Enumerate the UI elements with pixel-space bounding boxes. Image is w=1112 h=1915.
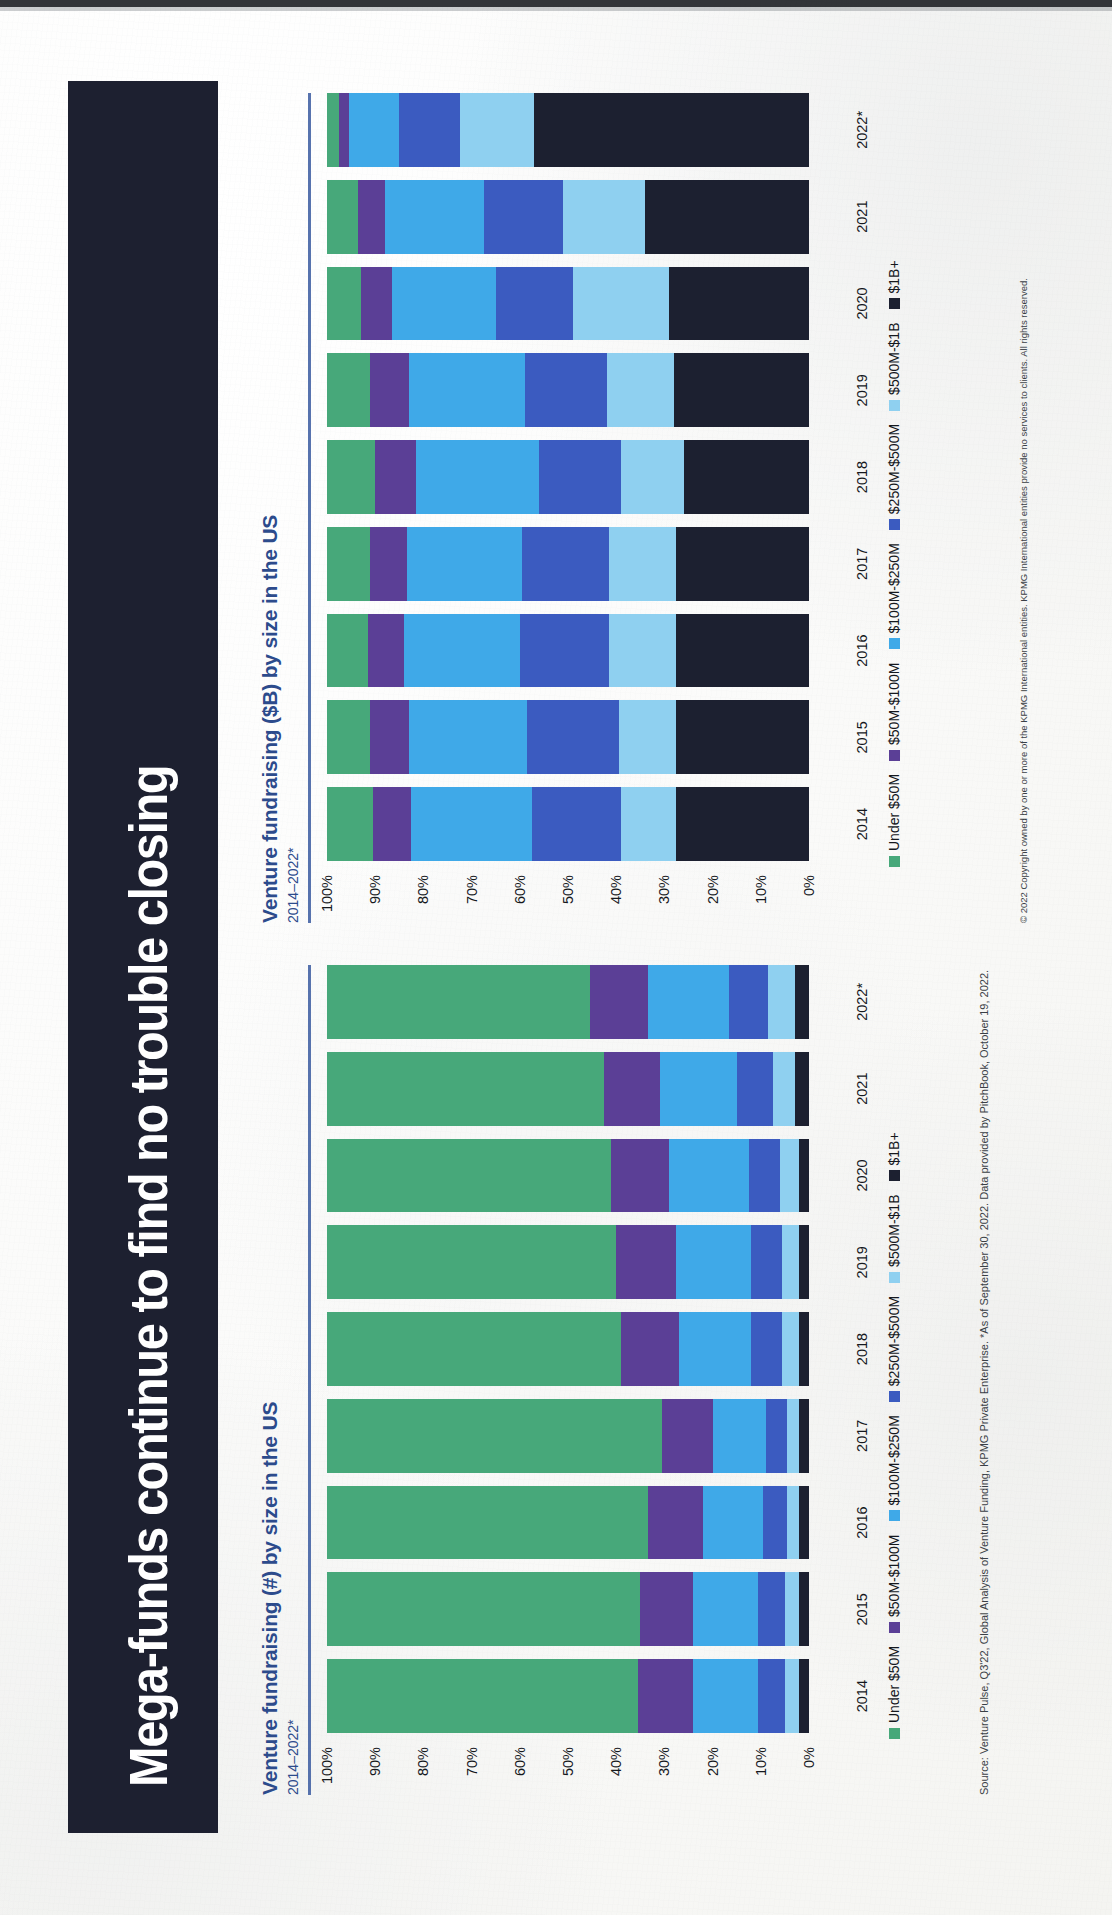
legend-swatch-icon xyxy=(889,1271,900,1282)
legend-item[interactable]: $250M-$500M xyxy=(886,1295,902,1401)
bar-segment xyxy=(607,353,674,427)
bar-segment xyxy=(327,1659,638,1733)
bar-column[interactable] xyxy=(327,1572,809,1646)
bar-segment xyxy=(621,1312,679,1386)
bar-segment xyxy=(525,353,607,427)
bar-column[interactable] xyxy=(327,1398,809,1472)
legend-item[interactable]: $50M-$100M xyxy=(886,662,902,761)
bar-column[interactable] xyxy=(327,965,809,1039)
y-tick-label: 80% xyxy=(415,875,431,904)
bar-column[interactable] xyxy=(327,1312,809,1386)
y-tick-label: 60% xyxy=(512,875,528,904)
chart-panel-amount: Venture fundraising ($B) by size in the … xyxy=(258,93,958,923)
bar-segment xyxy=(327,1138,611,1212)
legend-swatch-icon xyxy=(889,519,900,530)
bar-column[interactable] xyxy=(327,700,809,774)
bar-column[interactable] xyxy=(327,266,809,340)
bar-segment xyxy=(782,1312,799,1386)
bar-segment xyxy=(327,1398,662,1472)
bar-segment xyxy=(729,965,768,1039)
scan-top-edge-shadow xyxy=(0,7,1112,11)
plot-area-count: 100%90%80%70%60%50%40%30%20%10%0% xyxy=(327,965,847,1795)
y-tick-label: 40% xyxy=(608,875,624,904)
bar-segment xyxy=(358,179,385,253)
stacked-bar xyxy=(327,1225,809,1299)
y-tick-label: 0% xyxy=(801,875,817,896)
bar-segment xyxy=(795,1051,809,1125)
bar-column[interactable] xyxy=(327,179,809,253)
bar-segment xyxy=(327,1312,621,1386)
legend-swatch-icon xyxy=(889,399,900,410)
title-band: Mega-funds continue to find no trouble c… xyxy=(68,81,218,1833)
stacked-bar xyxy=(327,1138,809,1212)
x-tick-label: 2015 xyxy=(854,1572,870,1646)
legend-item[interactable]: $500M-$1B xyxy=(886,1194,902,1282)
legend-item[interactable]: $1B+ xyxy=(886,1132,902,1181)
legend-item[interactable]: $50M-$100M xyxy=(886,1534,902,1633)
legend-item[interactable]: $500M-$1B xyxy=(886,322,902,410)
legend-swatch-icon xyxy=(889,638,900,649)
legend-swatch-icon xyxy=(889,1510,900,1521)
bar-segment xyxy=(370,353,409,427)
x-tick-label: 2021 xyxy=(854,179,870,253)
bar-segment xyxy=(327,266,361,340)
bar-segment xyxy=(619,700,677,774)
bar-column[interactable] xyxy=(327,1051,809,1125)
x-tick-label: 2020 xyxy=(854,1138,870,1212)
legend-item-label: $100M-$250M xyxy=(886,1415,902,1505)
chart-rule-amount xyxy=(308,93,311,923)
bar-segment xyxy=(674,353,809,427)
legend-item-label: $500M-$1B xyxy=(886,1194,902,1266)
bar-column[interactable] xyxy=(327,93,809,167)
bar-segment xyxy=(766,1398,788,1472)
bar-segment xyxy=(679,1312,751,1386)
x-tick-label: 2019 xyxy=(854,1225,870,1299)
page-title: Mega-funds continue to find no trouble c… xyxy=(118,765,179,1786)
bar-column[interactable] xyxy=(327,440,809,514)
bar-segment xyxy=(416,440,539,514)
bar-segment xyxy=(460,93,535,167)
bar-segment xyxy=(785,1572,799,1646)
bar-segment xyxy=(787,1398,799,1472)
bar-segment xyxy=(676,787,809,861)
bars-amount xyxy=(327,93,809,869)
bar-segment xyxy=(780,1138,799,1212)
legend-item-label: $50M-$100M xyxy=(886,1534,902,1617)
legend-item-label: $100M-$250M xyxy=(886,543,902,633)
x-tick-label: 2018 xyxy=(854,1312,870,1386)
bar-segment xyxy=(749,1138,780,1212)
bar-segment xyxy=(693,1659,758,1733)
legend-item[interactable]: $250M-$500M xyxy=(886,423,902,529)
y-tick-label: 20% xyxy=(705,875,721,904)
bar-column[interactable] xyxy=(327,1485,809,1559)
bar-segment xyxy=(660,1051,737,1125)
legend-item-label: $1B+ xyxy=(886,1132,902,1165)
bar-column[interactable] xyxy=(327,1659,809,1733)
bar-segment xyxy=(785,1659,799,1733)
bar-column[interactable] xyxy=(327,787,809,861)
legend-item[interactable]: $100M-$250M xyxy=(886,543,902,649)
bar-segment xyxy=(616,1225,676,1299)
legend-item[interactable]: Under $50M xyxy=(886,773,902,866)
legend-item[interactable]: $1B+ xyxy=(886,260,902,309)
y-tick-label: 0% xyxy=(801,1747,817,1768)
bar-column[interactable] xyxy=(327,1225,809,1299)
bar-segment xyxy=(621,787,676,861)
bar-column[interactable] xyxy=(327,1138,809,1212)
bar-segment xyxy=(375,440,416,514)
legend-swatch-icon xyxy=(889,298,900,309)
bar-column[interactable] xyxy=(327,526,809,600)
y-tick-label: 30% xyxy=(656,875,672,904)
legend-item[interactable]: Under $50M xyxy=(886,1645,902,1738)
x-tick-label: 2020 xyxy=(854,266,870,340)
legend-item-label: $500M-$1B xyxy=(886,322,902,394)
bar-segment xyxy=(609,526,676,600)
legend-amount: Under $50M$50M-$100M$100M-$250M$250M-$50… xyxy=(886,93,902,867)
bar-segment xyxy=(539,440,621,514)
legend-item[interactable]: $100M-$250M xyxy=(886,1415,902,1521)
bar-column[interactable] xyxy=(327,353,809,427)
bar-segment xyxy=(409,353,525,427)
bar-segment xyxy=(327,440,375,514)
bar-segment xyxy=(611,1138,669,1212)
bar-column[interactable] xyxy=(327,613,809,687)
